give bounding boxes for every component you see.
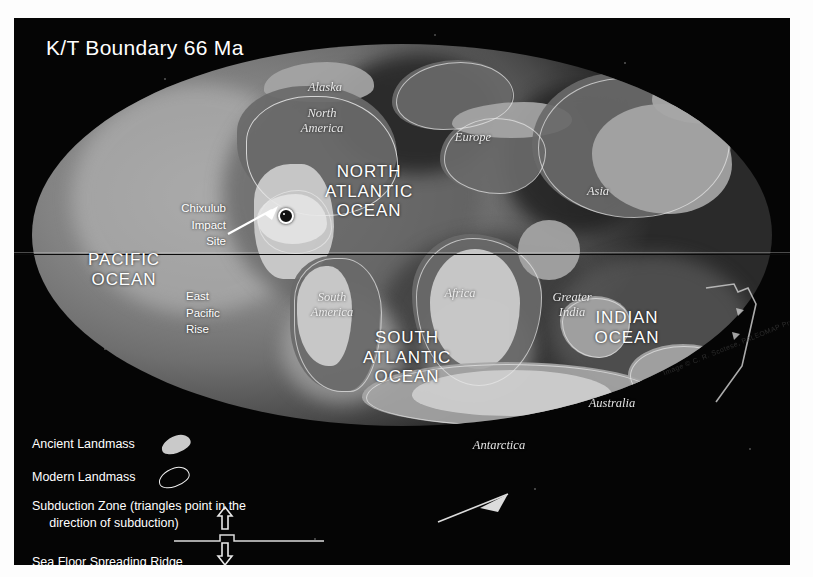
feature-label-chixulub-impact-site: Chixulub Impact Site xyxy=(154,200,226,250)
spreading-down-arrow-icon xyxy=(217,542,233,565)
ocean-label-north-atlantic: NORTH ATLANTIC OCEAN xyxy=(294,162,444,221)
continent-label-africa: Africa xyxy=(428,286,492,301)
screenshot-root: K/T Boundary 66 Ma PACIFIC OCEAN NORTH A… xyxy=(0,0,813,577)
spreading-ridge-symbol-icon xyxy=(174,530,324,546)
continent-label-north-america: North America xyxy=(286,106,358,135)
feature-label-east-pacific-rise: East Pacific Rise xyxy=(186,288,256,338)
continent-label-asia: Asia xyxy=(568,184,628,199)
continent-label-australia: Australia xyxy=(572,396,652,411)
legend-item-ancient-landmass: Ancient Landmass xyxy=(32,436,191,453)
legend-item-subduction-zone: Subduction Zone (triangles point in the … xyxy=(32,498,246,531)
continent-label-antarctica: Antarctica xyxy=(454,438,544,453)
continent-label-europe: Europe xyxy=(438,130,508,145)
ocean-label-south-atlantic: SOUTH ATLANTIC OCEAN xyxy=(332,328,482,387)
ocean-label-pacific: PACIFIC OCEAN xyxy=(64,250,184,289)
spreading-up-arrow-icon xyxy=(217,506,233,530)
subduction-zone-symbol-icon xyxy=(434,492,514,526)
continent-label-south-america: South America xyxy=(294,290,370,319)
chixulub-arrow-icon xyxy=(226,204,288,238)
continent-label-alaska: Alaska xyxy=(290,80,360,95)
legend-label-subduction-zone: Subduction Zone (triangles point in the … xyxy=(32,498,246,531)
page-title: K/T Boundary 66 Ma xyxy=(46,36,244,60)
legend-item-modern-landmass: Modern Landmass xyxy=(32,468,190,487)
map-plate: K/T Boundary 66 Ma PACIFIC OCEAN NORTH A… xyxy=(14,18,790,565)
legend-item-spreading-ridge: Sea Floor Spreading Ridge xyxy=(32,554,183,565)
legend-label-modern-landmass: Modern Landmass xyxy=(32,469,136,485)
legend-label-spreading-ridge: Sea Floor Spreading Ridge xyxy=(32,554,183,565)
legend-label-ancient-landmass: Ancient Landmass xyxy=(32,436,135,452)
chixulub-impact-marker-icon[interactable] xyxy=(278,208,294,224)
continent-label-greater-india: Greater India xyxy=(534,290,610,319)
